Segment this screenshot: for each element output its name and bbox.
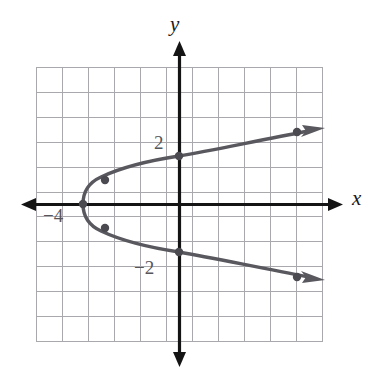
point-y-intercept-upper <box>175 152 183 160</box>
y-axis-label: y <box>170 14 179 35</box>
parabola-graph-figure <box>0 0 386 381</box>
point-lower-right <box>293 273 301 281</box>
x-axis-label: x <box>352 188 361 209</box>
x-tick-label-negative-4: −4 <box>43 206 63 225</box>
y-tick-label-2: 2 <box>154 133 164 152</box>
point-vertex <box>79 200 87 208</box>
y-tick-label-negative-2: −2 <box>134 258 154 277</box>
point-lower-left <box>101 224 109 232</box>
point-upper-right <box>293 128 301 136</box>
point-upper-left <box>101 176 109 184</box>
point-y-intercept-lower <box>175 248 183 256</box>
